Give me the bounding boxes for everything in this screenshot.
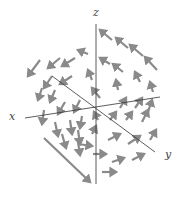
vector-arrow [42, 110, 44, 124]
vector-arrow [50, 90, 55, 102]
vector-field-diagram [0, 0, 179, 198]
vector-arrow [110, 112, 116, 120]
vector-arrow [70, 120, 72, 134]
vector-arrow [78, 144, 92, 146]
vector-arrow [130, 45, 143, 56]
vector-arrow [62, 134, 66, 148]
vector-arrow [132, 154, 144, 160]
vector-arrow [113, 64, 123, 72]
vector-arrow [92, 126, 96, 134]
vector-arrow [44, 76, 52, 88]
coordinate-axes [25, 24, 160, 184]
vector-arrow [135, 72, 140, 82]
z-axis-label: z [93, 6, 99, 19]
vector-arrow [100, 58, 110, 64]
vector-arrow [142, 110, 148, 122]
vector-arrow [145, 57, 157, 70]
vector-arrow [112, 158, 124, 162]
vector-arrow [116, 38, 128, 48]
vector-arrow [148, 100, 152, 112]
vector-arrow [116, 80, 118, 90]
vector-arrow [150, 130, 156, 140]
vector-arrow [135, 98, 142, 108]
vector-arrow [55, 122, 58, 136]
vector-arrow [78, 50, 88, 54]
vector-arrow [28, 60, 40, 76]
y-axis-label: y [165, 148, 171, 161]
x-axis [25, 97, 160, 118]
vector-arrow [48, 58, 60, 68]
vector-arrow [38, 88, 42, 100]
vector-arrow [108, 134, 120, 140]
vector-arrow [150, 82, 153, 92]
vector-arrow [126, 112, 132, 120]
y-axis [52, 76, 155, 152]
vector-arrow [88, 70, 92, 80]
vector-arrow [100, 30, 112, 40]
vector-arrow [62, 58, 75, 66]
x-axis-label: x [9, 110, 15, 123]
vector-arrow [80, 116, 82, 128]
